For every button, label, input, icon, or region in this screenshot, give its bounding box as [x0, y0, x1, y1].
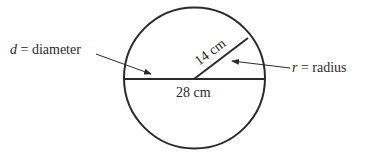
- diameter-measure: 28 cm: [176, 85, 211, 100]
- radius-pointer-arrow: [232, 61, 290, 68]
- diameter-label: d = diameter: [10, 42, 81, 57]
- radius-label: r = radius: [292, 60, 347, 75]
- radius-measure: 14 cm: [192, 36, 229, 69]
- circle-diagram: d = diameter r = radius 14 cm 28 cm: [0, 0, 365, 156]
